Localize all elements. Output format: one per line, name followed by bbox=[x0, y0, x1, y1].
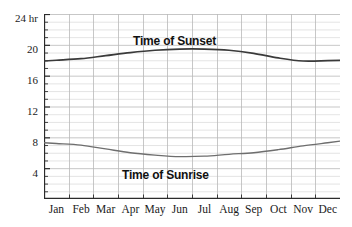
x-tick-label-jul: Jul bbox=[192, 201, 217, 221]
y-tick-label-8: 8 bbox=[33, 137, 39, 148]
sunrise-sunset-chart: 24 hr 20 16 12 8 4 Time of Sunset Time o… bbox=[0, 0, 352, 227]
x-tick-label-jan: Jan bbox=[44, 201, 69, 221]
x-tick-label-oct: Oct bbox=[266, 201, 291, 221]
y-tick-label-12: 12 bbox=[27, 106, 38, 117]
x-tick-label-aug: Aug bbox=[217, 201, 242, 221]
x-tick-label-jun: Jun bbox=[167, 201, 192, 221]
y-tick-label-16: 16 bbox=[27, 75, 38, 86]
y-axis-labels: 24 hr 20 16 12 8 4 bbox=[0, 0, 41, 227]
x-axis-labels: Jan Feb Mar Apr May Jun Jul Aug Sep Oct … bbox=[44, 201, 340, 221]
series-line-sunset bbox=[44, 49, 340, 61]
x-tick-label-sep: Sep bbox=[241, 201, 266, 221]
x-tick-label-may: May bbox=[143, 201, 168, 221]
series-line-sunrise bbox=[44, 141, 340, 156]
x-tick-label-mar: Mar bbox=[93, 201, 118, 221]
x-tick-label-dec: Dec bbox=[315, 201, 340, 221]
y-tick-label-20: 20 bbox=[27, 44, 38, 55]
x-tick-label-nov: Nov bbox=[291, 201, 316, 221]
x-tick-label-feb: Feb bbox=[69, 201, 94, 221]
x-tick-label-apr: Apr bbox=[118, 201, 143, 221]
series-label-sunrise: Time of Sunrise bbox=[122, 168, 209, 182]
y-tick-label-4: 4 bbox=[33, 168, 39, 179]
series-label-sunset: Time of Sunset bbox=[133, 34, 216, 48]
y-tick-label-24: 24 hr bbox=[15, 13, 38, 24]
